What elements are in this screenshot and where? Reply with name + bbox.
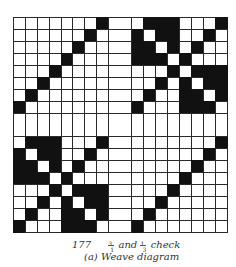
caption-subtitle: (a) Weave diagram [84, 251, 179, 263]
gap-column-cell [108, 220, 132, 233]
caption-connector: and [118, 239, 137, 250]
figure-number: 177 [72, 239, 91, 250]
weave-diagram-grid [13, 17, 227, 232]
caption-title: 177 3 1 and 1 3 check [72, 239, 180, 251]
bottom-right-cell [215, 220, 228, 233]
fraction-3-over-1: 3 1 [108, 239, 115, 251]
gap-center-cell [108, 113, 132, 137]
caption-suffix: check [151, 239, 181, 250]
gap-row-cell [215, 113, 228, 137]
fraction-1-over-3: 1 3 [140, 239, 147, 251]
